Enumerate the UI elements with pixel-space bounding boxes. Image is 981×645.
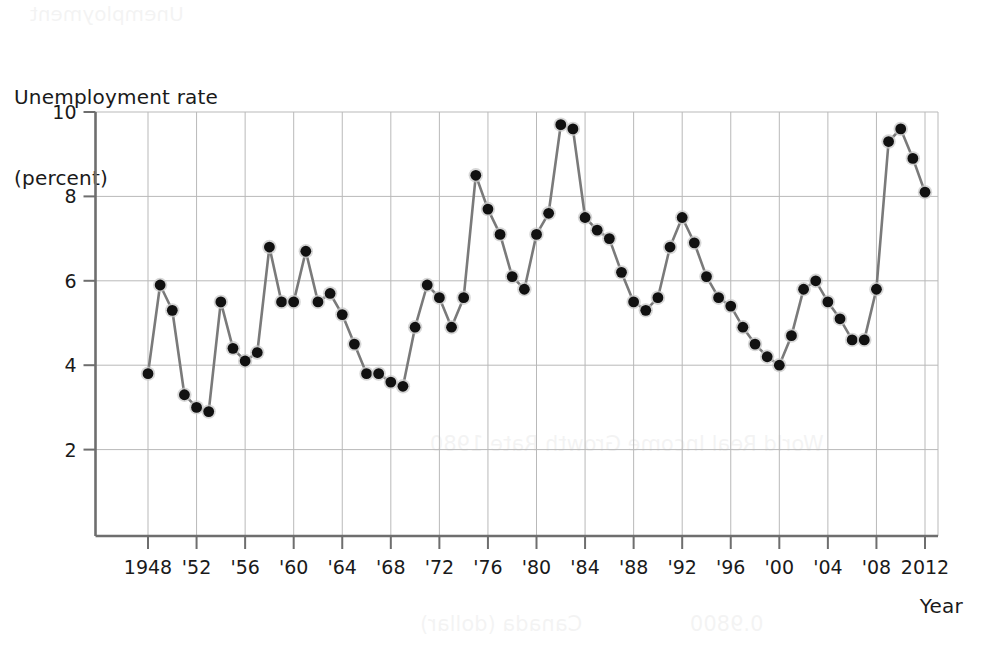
data-point-1989 [640, 305, 651, 316]
chart-figure: UnemploymentWorld Real Income Growth Rat… [0, 0, 981, 645]
x-tick-label-1968: '68 [376, 556, 405, 578]
data-point-1983 [568, 123, 579, 134]
x-tick-label-1976: '76 [473, 556, 502, 578]
data-point-1972 [434, 292, 445, 303]
data-point-2005 [835, 313, 846, 324]
data-point-1985 [592, 225, 603, 236]
data-point-1997 [737, 322, 748, 333]
data-point-1950 [167, 305, 178, 316]
data-point-2009 [883, 136, 894, 147]
x-tick-label-1960: '60 [279, 556, 308, 578]
x-tick-label-1984: '84 [570, 556, 599, 578]
data-point-1994 [701, 271, 712, 282]
line-chart-plot: 246810 1948'52'56'60'64'68'72'76'80'84'8… [0, 0, 981, 645]
x-axis-ticks [148, 536, 925, 549]
y-tick-label-10: 10 [52, 101, 76, 123]
data-point-1976 [483, 204, 494, 215]
data-point-1965 [349, 339, 360, 350]
data-point-1977 [495, 229, 506, 240]
data-point-1990 [653, 292, 664, 303]
y-tick-label-4: 4 [64, 354, 76, 376]
x-tick-label-1980: '80 [522, 556, 551, 578]
data-point-1956 [240, 356, 251, 367]
data-point-1973 [446, 322, 457, 333]
y-tick-label-2: 2 [64, 439, 76, 461]
data-point-1962 [313, 297, 324, 308]
data-point-2012 [920, 187, 931, 198]
x-tick-label-1972: '72 [425, 556, 454, 578]
data-point-1975 [470, 170, 481, 181]
data-point-1980 [531, 229, 542, 240]
data-point-1970 [410, 322, 421, 333]
x-tick-label-1996: '96 [716, 556, 745, 578]
data-point-1954 [215, 297, 226, 308]
data-point-1991 [665, 242, 676, 253]
data-point-1987 [616, 267, 627, 278]
data-point-1982 [555, 119, 566, 130]
y-tick-label-6: 6 [64, 270, 76, 292]
data-point-1949 [155, 280, 166, 291]
data-point-1955 [228, 343, 239, 354]
data-point-1996 [725, 301, 736, 312]
y-axis-ticks [84, 112, 96, 450]
x-tick-label-2012: 2012 [901, 556, 949, 578]
data-point-1959 [276, 297, 287, 308]
data-point-2007 [859, 334, 870, 345]
data-point-2004 [822, 297, 833, 308]
data-point-2010 [895, 123, 906, 134]
data-point-1992 [677, 212, 688, 223]
data-point-1958 [264, 242, 275, 253]
y-tick-labels: 246810 [52, 101, 76, 461]
x-tick-label-1964: '64 [328, 556, 357, 578]
data-point-1978 [507, 271, 518, 282]
data-point-1979 [519, 284, 530, 295]
data-point-1963 [325, 288, 336, 299]
x-tick-label-2008: '08 [862, 556, 891, 578]
x-tick-label-1956: '56 [230, 556, 259, 578]
x-gridlines [148, 112, 938, 536]
data-point-1969 [398, 381, 409, 392]
axis-lines [96, 112, 939, 536]
data-point-1957 [252, 347, 263, 358]
data-point-1961 [300, 246, 311, 257]
data-point-1948 [143, 368, 154, 379]
data-point-1995 [713, 292, 724, 303]
data-point-2011 [907, 153, 918, 164]
x-tick-labels: 1948'52'56'60'64'68'72'76'80'84'88'92'96… [124, 556, 949, 578]
data-point-2008 [871, 284, 882, 295]
x-tick-label-2000: '00 [765, 556, 794, 578]
data-point-1953 [203, 406, 214, 417]
data-point-2006 [847, 334, 858, 345]
x-tick-label-1948: 1948 [124, 556, 172, 578]
data-point-1974 [458, 292, 469, 303]
x-tick-label-1988: '88 [619, 556, 648, 578]
data-point-1986 [604, 233, 615, 244]
data-point-2000 [774, 360, 785, 371]
y-tick-label-8: 8 [64, 185, 76, 207]
data-point-1968 [385, 377, 396, 388]
data-point-1966 [361, 368, 372, 379]
data-point-1998 [750, 339, 761, 350]
data-point-1951 [179, 389, 190, 400]
data-point-1981 [543, 208, 554, 219]
data-point-1952 [191, 402, 202, 413]
data-point-1967 [373, 368, 384, 379]
data-point-1964 [337, 309, 348, 320]
data-point-1999 [762, 351, 773, 362]
data-point-2003 [810, 275, 821, 286]
data-point-1960 [288, 297, 299, 308]
x-tick-label-2004: '04 [813, 556, 842, 578]
x-tick-label-1952: '52 [182, 556, 211, 578]
x-tick-label-1992: '92 [667, 556, 696, 578]
data-point-1993 [689, 237, 700, 248]
data-point-1971 [422, 280, 433, 291]
data-point-1988 [628, 297, 639, 308]
data-point-1984 [580, 212, 591, 223]
data-point-2001 [786, 330, 797, 341]
data-point-2002 [798, 284, 809, 295]
